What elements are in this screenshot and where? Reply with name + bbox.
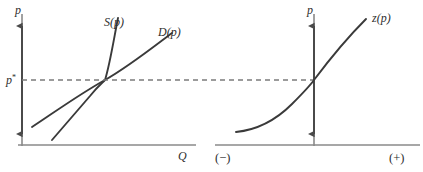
left-x-axis-label: Q: [178, 149, 187, 163]
left-panel: p p* S(p) D(p) Q: [5, 3, 196, 163]
equilibrium-price-letter: p: [5, 73, 12, 87]
right-panel: p z(p) (−) (+): [215, 3, 420, 165]
demand-curve-label: D(p): [157, 25, 181, 39]
excess-demand-curve-label: z(p): [371, 11, 391, 25]
excess-demand-curve: [236, 19, 366, 132]
figure-canvas: p p* S(p) D(p) Q p z(p) (−) (+): [0, 0, 423, 172]
equilibrium-price-star: *: [12, 73, 16, 82]
right-y-axis-label: p: [306, 3, 313, 17]
supply-curve-label: S(p): [104, 15, 124, 29]
left-y-axis-label: p: [14, 3, 21, 17]
negative-side-label: (−): [215, 151, 230, 165]
positive-side-label: (+): [389, 151, 404, 165]
equilibrium-price-label: p*: [5, 73, 16, 87]
economics-figure: p p* S(p) D(p) Q p z(p) (−) (+): [0, 0, 423, 172]
